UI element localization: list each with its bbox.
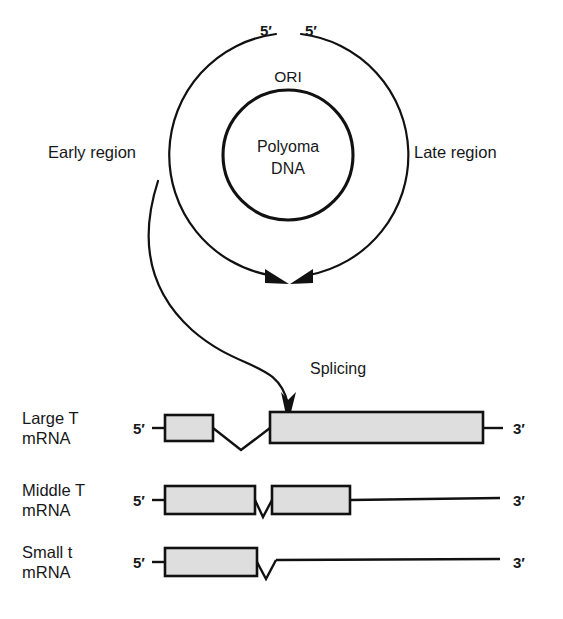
late-region-label: Late region xyxy=(414,143,497,161)
early-transcript-arrowhead xyxy=(265,269,289,284)
five-prime-left-label: 5′ xyxy=(260,22,272,39)
small-t-three-prime: 3′ xyxy=(513,554,525,571)
middle-t-intron xyxy=(255,500,272,517)
polyoma-splicing-figure: Polyoma DNA ORI 5′ 5′ Early region Late … xyxy=(0,0,563,619)
small-t-five-prime: 5′ xyxy=(133,554,145,571)
middle-t-three-prime: 3′ xyxy=(513,492,525,509)
transcript-row-small-t: Small t mRNA 5′ 3′ xyxy=(22,543,525,581)
small-t-trailer-line xyxy=(276,559,500,560)
transcript-row-middle-t: Middle T mRNA 5′ 3′ xyxy=(22,481,525,519)
large-t-three-prime: 3′ xyxy=(513,420,525,437)
early-region-label: Early region xyxy=(48,143,136,161)
middle-t-label-line1: Middle T xyxy=(22,481,85,499)
large-t-exon-2 xyxy=(270,412,483,443)
middle-t-five-prime: 5′ xyxy=(133,492,145,509)
middle-t-label-line2: mRNA xyxy=(22,501,71,519)
middle-t-exon-1 xyxy=(165,486,255,514)
dna-label-line1: Polyoma xyxy=(257,138,319,155)
middle-t-trailer-line xyxy=(350,498,500,500)
figure-canvas: Polyoma DNA ORI 5′ 5′ Early region Late … xyxy=(0,0,563,619)
small-t-label-line2: mRNA xyxy=(22,563,71,581)
large-t-label-line2: mRNA xyxy=(22,429,71,447)
large-t-five-prime: 5′ xyxy=(133,420,145,437)
late-transcript-arrowhead xyxy=(290,269,313,284)
splicing-label: Splicing xyxy=(310,360,366,377)
small-t-exon-1 xyxy=(165,548,257,576)
splicing-arrow-shaft xyxy=(149,181,288,404)
small-t-label-line1: Small t xyxy=(22,543,73,561)
splicing-arrow-group: Splicing xyxy=(149,181,366,424)
polyoma-dna-circle xyxy=(223,90,353,220)
ori-label: ORI xyxy=(274,68,302,85)
dna-label-line2: DNA xyxy=(271,160,305,177)
large-t-intron xyxy=(213,428,270,450)
large-t-label-line1: Large T xyxy=(22,409,79,427)
five-prime-right-label: 5′ xyxy=(305,22,317,39)
small-t-intron xyxy=(257,560,276,579)
large-t-exon-1 xyxy=(165,415,213,441)
middle-t-exon-2 xyxy=(272,486,350,514)
transcript-row-large-t: Large T mRNA 5′ 3′ xyxy=(22,409,525,450)
genome-map-group: Polyoma DNA ORI 5′ 5′ Early region Late … xyxy=(48,22,497,284)
